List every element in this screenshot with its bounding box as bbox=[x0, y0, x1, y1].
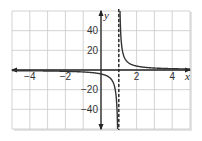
x-tick-label: −4 bbox=[24, 71, 36, 82]
y-tick-label: −40 bbox=[81, 104, 98, 115]
x-tick-label: 2 bbox=[134, 71, 140, 82]
y-tick-label: 40 bbox=[87, 25, 99, 36]
y-tick-label: −20 bbox=[81, 84, 98, 95]
rational-function-graph: −4−2244020−20−40 x y bbox=[0, 0, 202, 141]
x-tick-label: −2 bbox=[60, 71, 72, 82]
x-axis-label: x bbox=[184, 70, 190, 82]
x-tick-label: 4 bbox=[169, 71, 175, 82]
y-tick-label: 20 bbox=[87, 45, 99, 56]
y-axis-label: y bbox=[103, 9, 109, 21]
